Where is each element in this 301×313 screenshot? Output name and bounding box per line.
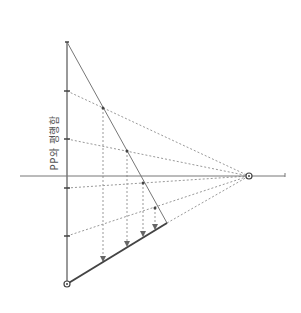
diagonal-point (154, 207, 157, 210)
vanishing-ray (67, 176, 249, 188)
vanishing-ray (67, 139, 249, 176)
thick-line-extension (167, 176, 249, 223)
parallel-to-pp-label: PP와 평행함 (46, 116, 61, 171)
vanishing-point-dot (248, 175, 250, 177)
perspective-line (67, 223, 167, 284)
diagonal-line (67, 42, 167, 223)
diagonal-point (142, 182, 145, 185)
station-point-dot (66, 283, 68, 285)
vanishing-ray (67, 91, 249, 176)
diagonal-point (102, 107, 105, 110)
diagonal-point (126, 150, 129, 153)
